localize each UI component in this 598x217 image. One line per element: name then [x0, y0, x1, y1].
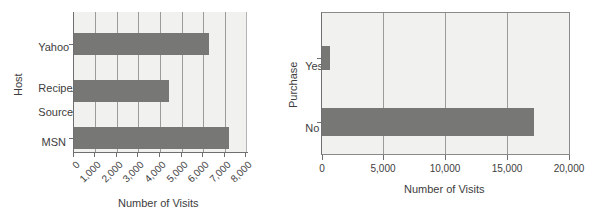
chart-panel-host: Host Yahoo Recipe Source MSN	[0, 0, 299, 217]
right-xtick-5000	[383, 155, 384, 160]
right-xticklabel-20000: 20,000	[554, 163, 585, 174]
left-category-recipe-line1: Recipe	[38, 82, 72, 94]
two-bar-charts-figure: Host Yahoo Recipe Source MSN	[0, 0, 598, 217]
left-category-label-recipe-source: Recipe Source	[20, 70, 66, 130]
left-category-label-msn: MSN	[20, 124, 66, 160]
left-xtick-3000	[137, 152, 138, 157]
left-bar-msn	[74, 127, 229, 149]
left-gridline-8000	[246, 12, 247, 152]
left-xtick-0	[73, 152, 74, 157]
left-category-msn-line1: MSN	[42, 136, 66, 148]
left-xtick-7000	[224, 152, 225, 157]
left-category-recipe-line2: Source	[38, 106, 73, 118]
left-xtick-1000	[94, 152, 95, 157]
left-x-axis-title: Number of Visits	[118, 197, 199, 209]
left-xtick-6000	[202, 152, 203, 157]
right-xtick-10000	[445, 155, 446, 160]
right-xticklabel-5000: 5,000	[370, 163, 395, 174]
right-xtick-15000	[507, 155, 508, 160]
right-category-label-yes: Yes	[287, 48, 311, 84]
right-bar-no	[322, 108, 534, 136]
left-plot-area	[73, 12, 247, 152]
right-x-axis-title: Number of Visits	[404, 183, 485, 195]
left-bar-yahoo	[74, 33, 209, 55]
left-category-yahoo-line1: Yahoo	[38, 41, 69, 53]
left-x-axis-line	[73, 152, 248, 153]
left-ytick-recipe	[69, 91, 74, 92]
left-bar-recipe-source	[74, 80, 169, 102]
right-xticklabel-15000: 15,000	[492, 163, 523, 174]
left-ytick-yahoo	[69, 44, 74, 45]
right-xtick-20000	[569, 155, 570, 160]
left-ytick-msn	[69, 138, 74, 139]
right-xticklabel-10000: 10,000	[430, 163, 461, 174]
left-xtick-5000	[181, 152, 182, 157]
right-category-no-line1: No	[305, 122, 319, 134]
left-category-label-yahoo: Yahoo	[20, 29, 66, 65]
right-category-label-no: No	[287, 110, 311, 146]
left-xtick-8000	[245, 152, 246, 157]
right-ytick-no	[317, 122, 322, 123]
left-xtick-4000	[159, 152, 160, 157]
left-xtick-2000	[116, 152, 117, 157]
right-bar-yes	[322, 46, 330, 70]
chart-panel-purchase: Purchase Yes No 0 5,000 1	[299, 0, 598, 217]
right-xtick-0	[322, 155, 323, 160]
right-ytick-yes	[317, 58, 322, 59]
right-xticklabel-0: 0	[319, 163, 325, 174]
right-plot-area	[321, 12, 570, 155]
